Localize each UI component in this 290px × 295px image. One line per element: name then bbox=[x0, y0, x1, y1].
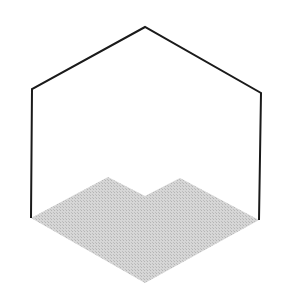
shaded-floor-region bbox=[31, 177, 259, 283]
room-outline bbox=[31, 27, 261, 220]
diagram-canvas bbox=[0, 0, 290, 295]
isometric-room-diagram bbox=[0, 0, 290, 295]
